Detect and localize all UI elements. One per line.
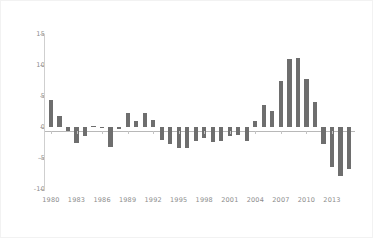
bar — [253, 121, 257, 127]
chart-figure: 151050-5-10 1980198319861989199219951998… — [0, 0, 373, 238]
bar — [245, 127, 249, 141]
x-tick-mark — [179, 131, 180, 134]
bar — [117, 127, 121, 129]
x-tick-label: 2013 — [317, 197, 347, 204]
bar — [57, 116, 61, 127]
bar — [236, 127, 240, 135]
x-tick-mark — [102, 131, 103, 134]
y-tick-label: -5 — [11, 155, 45, 162]
bar — [100, 127, 104, 128]
bar — [126, 113, 130, 127]
bar — [168, 127, 172, 144]
bar — [211, 127, 215, 142]
x-tick-mark — [51, 131, 52, 134]
x-tick-mark — [128, 131, 129, 134]
bar — [219, 127, 223, 141]
bar — [66, 127, 70, 131]
bar-series — [45, 34, 355, 189]
bar — [262, 105, 266, 127]
x-tick-mark — [204, 131, 205, 134]
bar — [185, 127, 189, 148]
y-tick-label: -10 — [11, 186, 45, 193]
y-tick-label: 10 — [11, 62, 45, 69]
bar — [91, 126, 95, 127]
bar — [304, 79, 308, 127]
x-tick-mark — [306, 131, 307, 134]
bar — [347, 127, 351, 169]
x-tick-mark — [332, 131, 333, 134]
y-tick-label: 5 — [11, 93, 45, 100]
x-tick-mark — [255, 131, 256, 134]
bar — [49, 100, 53, 127]
bar — [151, 120, 155, 127]
y-tick-label: 15 — [11, 31, 45, 38]
bar — [194, 127, 198, 141]
bar — [338, 127, 342, 176]
x-tick-mark — [77, 131, 78, 134]
bar — [134, 121, 138, 127]
bar — [279, 81, 283, 127]
bar — [287, 59, 291, 127]
x-tick-mark — [230, 131, 231, 134]
bar — [83, 127, 87, 136]
bar — [74, 127, 78, 143]
bar — [160, 127, 164, 140]
bar — [321, 127, 325, 144]
x-tick-mark — [281, 131, 282, 134]
bar — [270, 111, 274, 127]
bar — [143, 113, 147, 127]
y-tick-label: 0 — [11, 124, 45, 131]
plot-area — [45, 34, 355, 189]
bar — [108, 127, 112, 147]
bar — [313, 102, 317, 127]
bar — [296, 58, 300, 127]
x-tick-mark — [153, 131, 154, 134]
